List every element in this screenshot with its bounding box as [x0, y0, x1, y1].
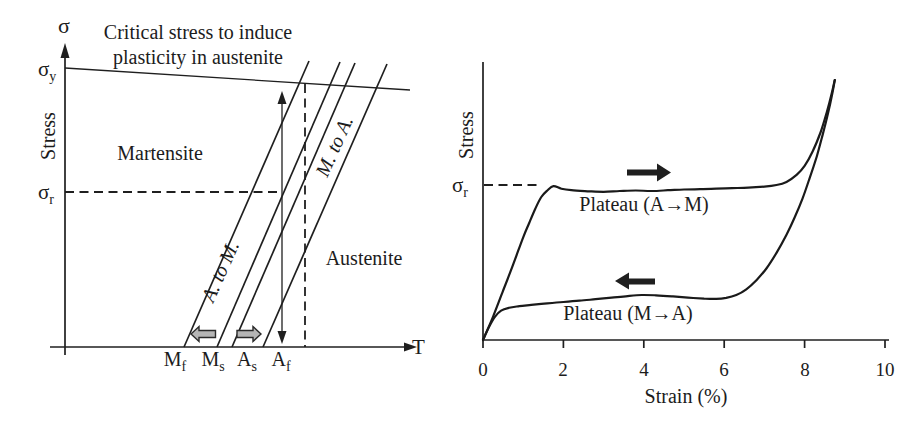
- a-to-m-band-label: A. to M.: [196, 237, 243, 307]
- left-x-axis-title: T: [412, 335, 425, 359]
- sigma-y-label: σy: [38, 57, 56, 84]
- x-tick-label-6: 6: [719, 359, 729, 380]
- mf-tick-label: Mf: [164, 348, 187, 374]
- figure: σ σy Stress σr Critical stress to induce…: [0, 0, 924, 426]
- right-panel: Stress σr Plateau (A→M) Plateau (M→A) 0 …: [452, 62, 895, 408]
- right-y-axis-title: Stress: [455, 111, 477, 159]
- left-y-axis-title: Stress: [37, 112, 59, 160]
- as-boundary-line: [232, 63, 355, 347]
- as-tick-label: As: [237, 348, 257, 374]
- stress-cycle-arrow-down-icon: [278, 331, 287, 344]
- mf-boundary-line: [184, 61, 309, 347]
- right-sigma-r-label: σr: [452, 173, 468, 200]
- x-tick-label-8: 8: [800, 359, 810, 380]
- lower-plateau-label: Plateau (M→A): [563, 302, 692, 325]
- af-tick-label: Af: [271, 348, 290, 374]
- left-sigma-r-label: σr: [38, 180, 54, 207]
- ms-boundary-line: [217, 62, 340, 347]
- critical-stress-line: [65, 68, 410, 90]
- loading-direction-arrow-icon: [627, 164, 671, 182]
- x-tick-label-2: 2: [558, 359, 568, 380]
- stress-cycle-arrow-up-icon: [278, 91, 287, 104]
- x-tick-label-4: 4: [639, 359, 649, 380]
- austenite-region-label: Austenite: [326, 247, 403, 269]
- upper-plateau-label: Plateau (A→M): [579, 193, 708, 216]
- left-y-axis-arrowhead-icon: [61, 43, 70, 58]
- unloading-direction-arrow-icon: [615, 273, 655, 290]
- shift-left-arrow-icon: [191, 327, 216, 342]
- left-panel: σ σy Stress σr Critical stress to induce…: [37, 13, 425, 374]
- left-title-line1: Critical stress to induce: [104, 21, 292, 43]
- martensite-region-label: Martensite: [117, 142, 203, 164]
- left-title-line2: plasticity in austenite: [113, 46, 283, 69]
- figure-svg: σ σy Stress σr Critical stress to induce…: [0, 0, 924, 426]
- x-tick-label-0: 0: [478, 359, 488, 380]
- x-tick-label-10: 10: [876, 359, 895, 380]
- left-sigma-symbol: σ: [58, 13, 70, 38]
- right-x-axis-title: Strain (%): [645, 385, 728, 408]
- ms-tick-label: Ms: [201, 348, 224, 374]
